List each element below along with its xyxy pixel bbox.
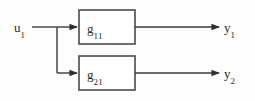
block-label-g11-subscript: 11 xyxy=(94,31,103,41)
input-label-u1-subscript: 1 xyxy=(21,30,26,40)
input-label-u1: u1 xyxy=(14,19,25,38)
block-label-g21-base: g xyxy=(87,67,94,82)
block-label-g11: g11 xyxy=(87,20,103,39)
input-label-u1-base: u xyxy=(14,20,21,35)
output-label-y2: y2 xyxy=(224,65,235,84)
output-label-y2-subscript: 2 xyxy=(231,76,236,86)
output-label-y1-subscript: 1 xyxy=(231,30,236,40)
block-label-g21-subscript: 21 xyxy=(94,77,104,87)
output-label-y1-base: y xyxy=(224,20,231,35)
output-label-y2-base: y xyxy=(224,66,231,81)
block-label-g11-base: g xyxy=(87,21,94,36)
block-label-g21: g21 xyxy=(87,66,103,85)
block-diagram: u1 g11 g21 y1 y2 xyxy=(0,0,255,101)
output-label-y1: y1 xyxy=(224,19,235,38)
diagram-canvas xyxy=(0,0,255,101)
